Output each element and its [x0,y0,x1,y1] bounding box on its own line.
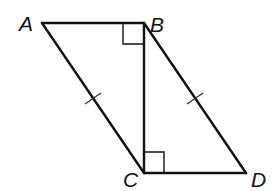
right-angle-marker-c [144,152,164,173]
geometry-diagram: A B C D [0,0,277,191]
vertex-label-b: B [150,13,164,36]
tick-mark-ac [85,93,101,104]
tick-mark-bd [187,93,203,104]
vertex-label-c: C [123,168,139,191]
right-angle-marker-b [123,23,144,44]
vertex-label-d: D [251,168,266,191]
vertex-label-a: A [17,12,33,35]
